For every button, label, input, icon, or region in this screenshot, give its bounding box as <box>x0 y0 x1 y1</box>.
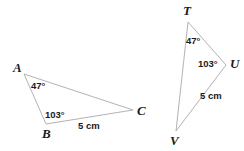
vertex-label-u: U <box>230 57 239 70</box>
angle-label-u-103: 103° <box>198 59 218 69</box>
side-label-bc-5cm: 5 cm <box>78 121 100 131</box>
angle-label-t-47: 47° <box>186 36 200 46</box>
vertex-label-b: B <box>42 127 51 140</box>
side-label-uv-5cm: 5 cm <box>200 91 222 101</box>
triangles-svg <box>0 0 244 151</box>
angle-label-b-103: 103° <box>45 110 65 120</box>
vertex-label-t: T <box>183 4 191 17</box>
vertex-label-c: C <box>137 104 146 117</box>
vertex-label-a: A <box>13 61 22 74</box>
vertex-label-v: V <box>170 134 179 147</box>
triangle-tuv-outline <box>176 22 226 131</box>
geometry-figure-page: A B C 47° 103° 5 cm T U V 47° 103° 5 cm <box>0 0 244 151</box>
angle-label-a-47: 47° <box>31 81 45 91</box>
triangle-tuv-shape <box>176 22 226 131</box>
